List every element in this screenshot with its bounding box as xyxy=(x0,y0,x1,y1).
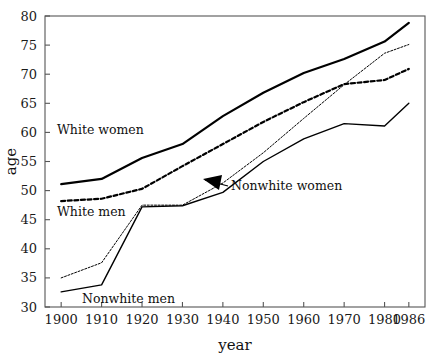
series-label-white-men: White men xyxy=(57,204,126,219)
chart-container: 3035404550556065707580190019101920193019… xyxy=(0,0,441,362)
x-tick-label: 1986 xyxy=(392,312,425,327)
x-tick-label: 1930 xyxy=(166,312,199,327)
x-tick-label: 1940 xyxy=(206,312,239,327)
y-tick-label: 35 xyxy=(20,270,37,285)
y-tick-label: 40 xyxy=(20,241,37,256)
x-tick-label: 1900 xyxy=(45,312,78,327)
y-tick-label: 30 xyxy=(20,300,37,315)
x-axis-title: year xyxy=(217,336,252,354)
series-label-nonwhite-women: Nonwhite women xyxy=(231,178,342,193)
x-tick-label: 1910 xyxy=(85,312,118,327)
series-line-nonwhite-women xyxy=(61,45,409,278)
plot-frame xyxy=(45,16,425,307)
x-tick-label: 1950 xyxy=(247,312,280,327)
series-label-white-women: White women xyxy=(57,122,144,137)
x-tick-label: 1920 xyxy=(125,312,158,327)
y-tick-label: 80 xyxy=(20,9,37,24)
y-tick-label: 55 xyxy=(20,154,37,169)
x-tick-label: 1970 xyxy=(328,312,361,327)
y-tick-label: 60 xyxy=(20,125,37,140)
y-tick-label: 50 xyxy=(20,183,37,198)
line-chart: 3035404550556065707580190019101920193019… xyxy=(0,0,441,362)
y-tick-label: 45 xyxy=(20,212,37,227)
series-label-nonwhite-men: Nonwhite men xyxy=(82,291,175,306)
y-tick-label: 65 xyxy=(20,96,37,111)
y-tick-label: 75 xyxy=(20,38,37,53)
x-tick-label: 1960 xyxy=(287,312,320,327)
series-line-white-women xyxy=(61,23,409,184)
annotation-arrow-head xyxy=(203,175,222,190)
y-axis-title: age xyxy=(2,148,20,176)
y-tick-label: 70 xyxy=(20,67,37,82)
